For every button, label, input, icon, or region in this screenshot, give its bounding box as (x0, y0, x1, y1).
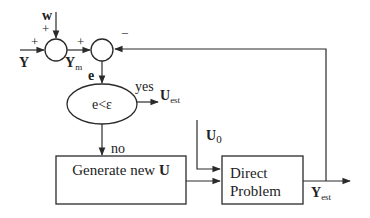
u0-label: U0 (206, 128, 222, 145)
u0-subscript: 0 (216, 133, 222, 145)
ym-main: Y (65, 55, 75, 70)
uest-main: U (160, 88, 170, 103)
sum1-left-sign: + (31, 34, 38, 49)
e-label: e (88, 68, 94, 83)
no-label: no (111, 141, 125, 156)
decision-condition: e<ε (92, 97, 112, 112)
yest-main: Y (311, 185, 321, 200)
u0-main: U (206, 128, 216, 143)
ym-label: Ym (65, 55, 82, 72)
uest-label: Uest (160, 88, 181, 105)
direct-block-line1: Direct (230, 165, 268, 181)
summing-junction-1 (45, 39, 67, 61)
generate-text: Generate new (72, 162, 159, 178)
yest-label: Yest (311, 185, 332, 202)
ym-subscript: m (75, 62, 82, 72)
y-label: Y (19, 55, 29, 70)
generate-block-label: Generate new U (72, 162, 170, 178)
yes-label: yes (135, 79, 154, 94)
sum2-right-sign: − (121, 26, 128, 41)
generate-bold-u: U (159, 162, 170, 178)
sum2-left-sign: + (77, 34, 84, 49)
uest-subscript: est (170, 95, 180, 105)
yest-subscript: est (321, 192, 331, 202)
sum1-top-sign: + (42, 21, 49, 36)
block-diagram: w + + Y Ym + − e e<ε yes Uest no Generat… (0, 0, 370, 218)
summing-junction-2 (91, 39, 113, 61)
direct-block-line2: Problem (230, 183, 281, 199)
